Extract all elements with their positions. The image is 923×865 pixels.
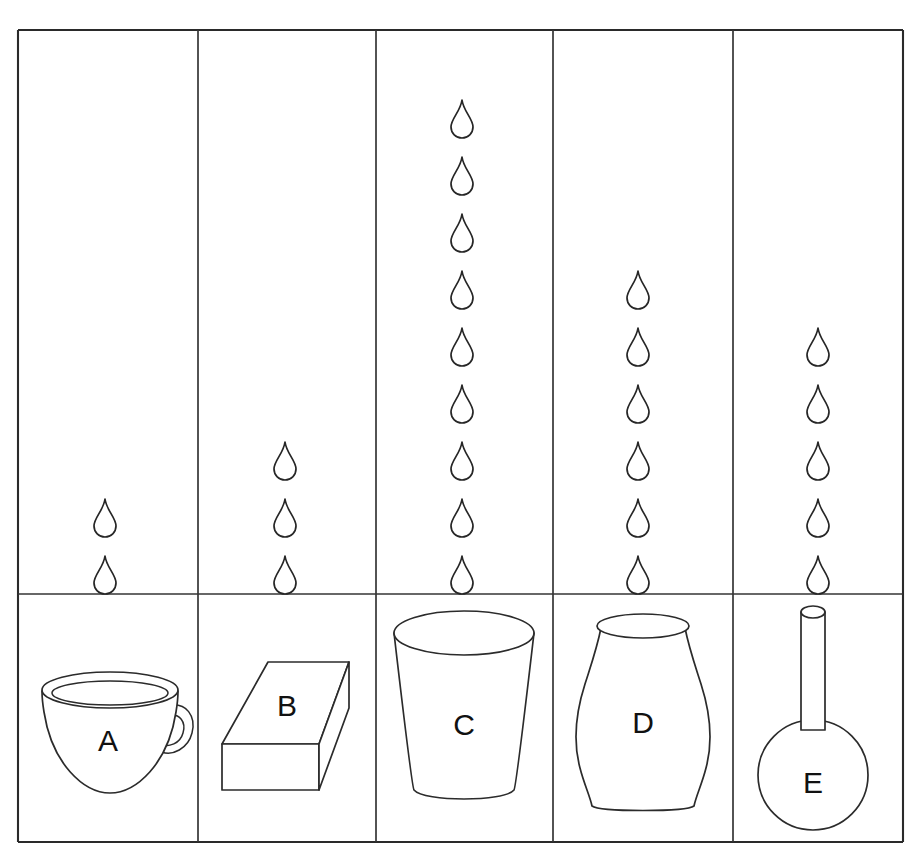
glass-rim <box>394 611 534 655</box>
box-label: B <box>277 689 297 722</box>
box-front-face <box>222 744 319 790</box>
drop-column-c <box>451 100 473 594</box>
figure-canvas: A B C D <box>0 0 923 865</box>
vase-label: D <box>632 706 654 739</box>
containers-and-drops-diagram: A B C D <box>0 0 923 865</box>
flask-opening <box>801 606 825 618</box>
glass-label: C <box>453 708 475 741</box>
cell-c-vessel[interactable]: C <box>394 611 534 799</box>
cup-rim-outer <box>42 672 178 708</box>
flask-label: E <box>803 766 823 799</box>
cup-label: A <box>98 724 118 757</box>
vase-mouth <box>597 614 689 638</box>
flask-neck <box>801 612 825 730</box>
